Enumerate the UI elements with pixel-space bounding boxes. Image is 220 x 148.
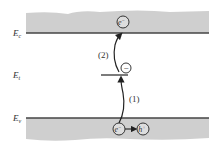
valence-hole: h+ (137, 123, 149, 135)
valence-level-label: Ev (12, 113, 22, 124)
transition-2-arrow (114, 35, 120, 72)
valence-electron: e− (113, 123, 125, 135)
svg-text:−: − (123, 63, 128, 73)
trap-level-label: Et (12, 70, 21, 81)
energy-band-diagram: Ec Et Ev (1) (2) − e− e− (0, 0, 220, 148)
transition-2-label: (2) (98, 50, 109, 60)
conduction-level-label: Ec (12, 28, 22, 39)
transition-1-label: (1) (129, 94, 140, 104)
conduction-electron: e− (117, 16, 129, 28)
transition-1-arrow (119, 79, 124, 123)
trapped-electron: − (121, 63, 131, 73)
